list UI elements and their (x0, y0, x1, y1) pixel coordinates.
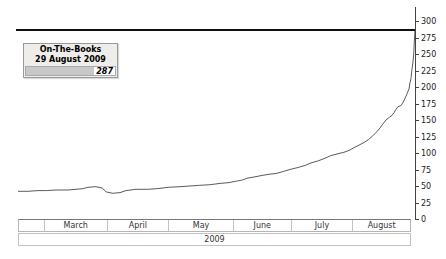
y-tick-275 (415, 38, 419, 39)
y-tick-label-175: 175 (421, 100, 436, 109)
legend-gauge-bar (26, 67, 94, 75)
plot-area (18, 7, 415, 219)
y-tick-label-25: 25 (421, 199, 431, 208)
y-tick-label-250: 250 (421, 50, 436, 59)
y-tick-175 (415, 104, 419, 105)
month-stub (19, 220, 44, 231)
y-tick-50 (415, 186, 419, 187)
y-tick-label-125: 125 (421, 133, 436, 142)
month-label-may: May (168, 220, 233, 231)
y-tick-label-200: 200 (421, 83, 436, 92)
y-tick-75 (415, 170, 419, 171)
legend-value: 287 (96, 67, 113, 76)
y-tick-0 (415, 219, 419, 220)
year-label: 2009 (204, 235, 224, 244)
legend-box: On-The-Books 29 August 2009 287 (23, 43, 118, 78)
month-label-april: April (107, 220, 169, 231)
y-tick-label-225: 225 (421, 67, 436, 76)
y-tick-label-100: 100 (421, 149, 436, 158)
x-axis-month-band: MarchAprilMayJuneJulyAugust (18, 219, 411, 232)
pace-curve (18, 7, 415, 219)
y-tick-label-50: 50 (421, 182, 431, 191)
booking-pace-chart: 0255075100125150175200225250275300 March… (0, 0, 446, 259)
month-label-june: June (233, 220, 291, 231)
reference-line-287 (16, 29, 415, 31)
legend-date: 29 August 2009 (24, 55, 117, 65)
y-tick-100 (415, 153, 419, 154)
y-tick-label-275: 275 (421, 34, 436, 43)
legend-gauge: 287 (25, 66, 116, 76)
y-tick-225 (415, 71, 419, 72)
y-tick-label-150: 150 (421, 116, 436, 125)
y-tick-150 (415, 120, 419, 121)
y-tick-label-0: 0 (421, 215, 426, 224)
y-tick-125 (415, 137, 419, 138)
y-tick-label-75: 75 (421, 166, 431, 175)
y-tick-200 (415, 87, 419, 88)
y-tick-25 (415, 203, 419, 204)
y-tick-300 (415, 21, 419, 22)
y-tick-label-300: 300 (421, 17, 436, 26)
y-axis-line (415, 7, 416, 220)
month-label-july: July (291, 220, 353, 231)
legend-title: On-The-Books (24, 45, 117, 55)
x-axis-year-band: 2009 (18, 233, 411, 246)
month-label-august: August (352, 220, 410, 231)
month-label-march: March (44, 220, 107, 231)
y-tick-250 (415, 54, 419, 55)
